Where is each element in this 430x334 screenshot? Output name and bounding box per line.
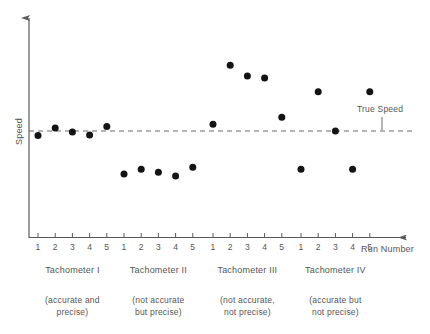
group-description: (accurate butnot precise) <box>280 295 390 318</box>
x-axis-ticks <box>38 233 370 238</box>
x-tick-label: 5 <box>101 242 113 252</box>
data-point <box>366 88 373 95</box>
data-point <box>121 171 128 178</box>
data-point <box>332 128 339 135</box>
data-point <box>298 166 305 173</box>
y-axis-label: Speed <box>14 118 24 145</box>
x-tick-label: 3 <box>66 242 78 252</box>
data-point <box>278 114 285 121</box>
data-point <box>69 128 76 135</box>
data-point <box>349 166 356 173</box>
x-tick-label: 4 <box>347 242 359 252</box>
scatter-plot-canvas <box>0 0 430 334</box>
x-tick-label: 5 <box>364 242 376 252</box>
x-tick-label: 2 <box>135 242 147 252</box>
x-tick-label: 1 <box>295 242 307 252</box>
data-point <box>227 62 234 69</box>
data-point <box>103 123 110 130</box>
group-description-line-1: (accurate but <box>280 295 390 307</box>
data-point <box>155 169 162 176</box>
x-tick-label: 2 <box>49 242 61 252</box>
x-tick-label: 5 <box>187 242 199 252</box>
x-tick-label: 1 <box>118 242 130 252</box>
x-tick-label: 2 <box>224 242 236 252</box>
data-point <box>86 131 93 138</box>
data-point <box>172 173 179 180</box>
x-tick-label: 3 <box>152 242 164 252</box>
data-point <box>189 164 196 171</box>
data-point <box>315 88 322 95</box>
x-tick-label: 5 <box>276 242 288 252</box>
x-tick-label: 4 <box>170 242 182 252</box>
data-point-layer <box>35 62 374 180</box>
x-tick-label: 1 <box>32 242 44 252</box>
data-point <box>210 121 217 128</box>
data-point <box>138 166 145 173</box>
group-description-line-2: not precise) <box>280 307 390 319</box>
x-tick-label: 3 <box>329 242 341 252</box>
chart-figure: Speed Run Number True Speed 123451234512… <box>0 0 430 334</box>
x-tick-label: 1 <box>207 242 219 252</box>
x-tick-label: 3 <box>241 242 253 252</box>
data-point <box>35 132 42 139</box>
x-tick-label: 2 <box>312 242 324 252</box>
data-point <box>261 75 268 82</box>
group-title: Tachometer IV <box>280 265 390 275</box>
x-tick-label: 4 <box>259 242 271 252</box>
true-speed-annotation: True Speed <box>357 104 403 114</box>
data-point <box>244 73 251 80</box>
data-point <box>52 125 59 132</box>
x-tick-label: 4 <box>84 242 96 252</box>
